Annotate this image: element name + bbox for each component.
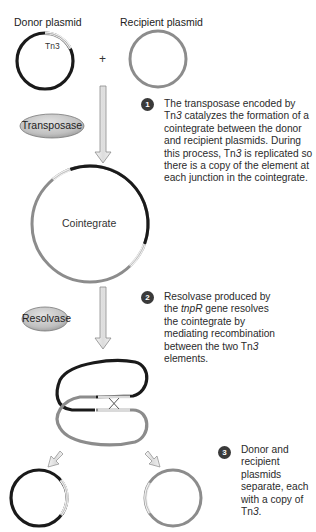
step-3-badge: 3 bbox=[218, 446, 231, 459]
crossover-x bbox=[109, 398, 119, 409]
plus-sign: + bbox=[99, 52, 106, 66]
recipient-plasmid-ring bbox=[130, 31, 186, 87]
recipient-loop bbox=[57, 397, 147, 445]
final-donor-plasmid bbox=[11, 470, 67, 526]
step-text-run: tnpR bbox=[181, 303, 203, 314]
diagonal-arrow-right bbox=[145, 451, 160, 467]
tn3-label: Tn3 bbox=[45, 41, 60, 51]
recipient-plasmid-label: Recipient plasmid bbox=[120, 16, 203, 28]
cointegrate-tn3-left bbox=[53, 170, 70, 180]
step-3-text: Donor and recipient plasmids separate, e… bbox=[241, 444, 316, 518]
step-2-text: Resolvase produced by the tnpR gene reso… bbox=[164, 291, 282, 365]
donor-loop bbox=[57, 361, 147, 410]
diagonal-arrow-left bbox=[48, 451, 63, 467]
cointegrate-donor-segment bbox=[70, 166, 148, 244]
donor-plasmid-label: Donor plasmid bbox=[14, 16, 82, 28]
cointegrate-label: Cointegrate bbox=[62, 217, 116, 229]
transposase-label: Transposase bbox=[20, 119, 84, 131]
recombination-intermediate bbox=[57, 361, 147, 445]
step-text-run: . bbox=[259, 506, 262, 517]
down-arrow-1 bbox=[95, 86, 111, 163]
step-1-text: The transposase encoded by Tn3 catalyzes… bbox=[164, 98, 314, 185]
final-recipient-plasmid bbox=[145, 470, 201, 526]
resolvase-label: Resolvase bbox=[22, 312, 68, 324]
step-text-run: 3 bbox=[253, 341, 259, 352]
step-2-badge: 2 bbox=[141, 291, 154, 304]
step-text-run: Donor and recipient plasmids separate, e… bbox=[241, 444, 308, 517]
step-1-badge: 1 bbox=[141, 98, 154, 111]
down-arrow-2 bbox=[95, 287, 111, 349]
step-text-run: elements. bbox=[164, 353, 208, 364]
